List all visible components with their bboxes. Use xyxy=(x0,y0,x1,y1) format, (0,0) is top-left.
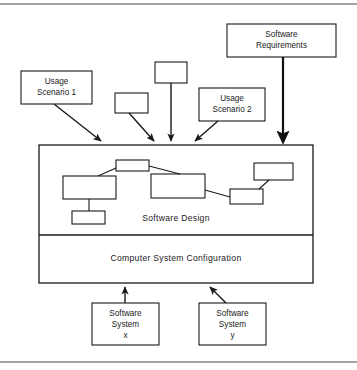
unlabeled-input-box-top-center[interactable] xyxy=(155,62,187,83)
node-software-system-y[interactable]: Software System y xyxy=(199,303,266,345)
software-system-x-label-line2: System xyxy=(112,320,139,329)
arrow-systemy-to-container xyxy=(210,287,226,303)
node-software-system-x[interactable]: Software System x xyxy=(92,303,159,345)
usage-scenario-1-label-line1: Usage xyxy=(45,77,69,86)
inner-box-right-lower[interactable] xyxy=(230,189,263,204)
software-system-x-label-line1: Software xyxy=(109,309,142,318)
inner-box-left-large[interactable] xyxy=(63,176,116,199)
unlabeled-input-box-mid-left[interactable] xyxy=(115,93,148,113)
main-container[interactable]: Software Design Computer System Configur… xyxy=(39,145,313,283)
usage-scenario-1-label-line2: Scenario 1 xyxy=(37,88,77,97)
arrow-scenario1-to-container xyxy=(54,104,101,141)
software-design-context-diagram: Software Requirements Usage Scenario 1 U… xyxy=(0,0,357,370)
inner-box-left-small[interactable] xyxy=(72,211,105,224)
node-usage-scenario-2[interactable]: Usage Scenario 2 xyxy=(199,88,265,121)
software-requirements-label-line2: Requirements xyxy=(256,41,307,50)
usage-scenario-2-label-line1: Usage xyxy=(220,94,244,103)
software-design-label: Software Design xyxy=(142,213,210,223)
inner-box-center-large[interactable] xyxy=(151,174,205,198)
computer-system-configuration-label: Computer System Configuration xyxy=(111,253,242,263)
inner-box-top-center[interactable] xyxy=(116,160,149,171)
node-usage-scenario-1[interactable]: Usage Scenario 1 xyxy=(21,71,92,104)
node-software-requirements[interactable]: Software Requirements xyxy=(227,24,336,57)
arrow-midleft-to-container xyxy=(129,113,154,141)
software-system-x-label-line3: x xyxy=(123,331,127,340)
software-requirements-label-line1: Software xyxy=(265,30,298,39)
arrow-scenario2-to-container xyxy=(195,121,218,141)
software-system-y-label-line2: System xyxy=(219,320,246,329)
diagram-canvas: Software Requirements Usage Scenario 1 U… xyxy=(0,0,357,370)
software-system-y-label-line1: Software xyxy=(216,309,249,318)
usage-scenario-2-label-line2: Scenario 2 xyxy=(212,105,252,114)
inner-box-right-upper[interactable] xyxy=(254,163,293,180)
